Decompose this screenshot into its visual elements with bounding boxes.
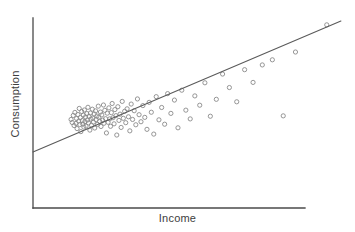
data-point <box>145 127 149 131</box>
data-point <box>220 72 224 76</box>
data-point <box>176 126 180 130</box>
data-point <box>115 133 119 137</box>
data-point <box>169 111 173 115</box>
data-point <box>120 99 124 103</box>
data-point <box>125 107 129 111</box>
data-point <box>139 120 143 124</box>
data-point <box>128 129 132 133</box>
data-point <box>135 97 139 101</box>
data-point <box>235 100 239 104</box>
data-point <box>293 50 297 54</box>
y-axis-label-container: Consumption <box>0 0 28 208</box>
data-point <box>260 63 264 67</box>
data-point <box>112 122 116 126</box>
data-point <box>117 118 121 122</box>
data-point <box>198 103 202 107</box>
x-axis-label: Income <box>0 212 355 224</box>
data-point <box>130 117 134 121</box>
data-point <box>243 68 247 72</box>
data-point <box>143 115 147 119</box>
data-point <box>203 81 207 85</box>
data-point <box>270 58 274 62</box>
data-point <box>160 105 164 109</box>
data-point <box>163 122 167 126</box>
data-point <box>157 118 161 122</box>
data-point <box>154 95 158 99</box>
data-point <box>184 108 188 112</box>
data-point <box>149 110 153 114</box>
data-point <box>137 113 141 117</box>
data-point <box>104 131 108 135</box>
data-point <box>116 105 120 109</box>
data-point <box>121 116 125 120</box>
data-point <box>110 101 114 105</box>
regression-trend-line <box>33 21 341 152</box>
data-point <box>152 132 156 136</box>
y-axis-label: Consumption <box>8 70 20 137</box>
data-point <box>86 105 90 109</box>
data-point <box>105 111 109 115</box>
data-point <box>109 111 113 115</box>
data-point <box>214 97 218 101</box>
plot-canvas <box>0 0 355 232</box>
scatter-plot-figure: Consumption Income <box>0 0 355 232</box>
data-point <box>193 94 197 98</box>
data-point <box>126 115 130 119</box>
data-point <box>188 117 192 121</box>
data-point <box>96 104 100 108</box>
data-point <box>124 121 128 125</box>
data-point <box>119 125 123 129</box>
data-point <box>281 114 285 118</box>
data-point <box>129 102 133 106</box>
data-point <box>101 103 105 107</box>
data-point <box>134 123 138 127</box>
data-point <box>208 114 212 118</box>
data-point <box>75 126 79 130</box>
data-point <box>107 106 111 110</box>
data-point <box>251 80 255 84</box>
data-point <box>227 85 231 89</box>
data-point <box>172 98 176 102</box>
